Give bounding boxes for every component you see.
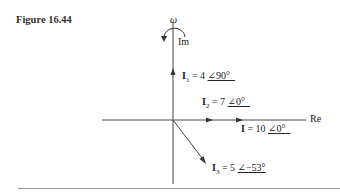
phasor-diagram (0, 0, 340, 193)
omega-label: ω (170, 14, 177, 25)
phasor-i1-label: I1 = 4 ∠90° (182, 70, 235, 84)
i3-arrowhead (200, 156, 207, 164)
phasor-i2-label: I2 = 7 ∠0° (202, 96, 250, 110)
phasor-i3-label: I3 = 5 ∠−53° (212, 162, 266, 176)
i3-line (173, 120, 205, 162)
real-axis-label: Re (310, 113, 321, 124)
i-arrowhead (236, 118, 243, 123)
bottom-rule (18, 188, 340, 189)
i1-arrowhead (171, 68, 176, 75)
phasor-i-label: I = 10 ∠0° (241, 123, 290, 134)
imag-axis-label: Im (178, 36, 189, 47)
i2-arrowhead (206, 118, 213, 123)
